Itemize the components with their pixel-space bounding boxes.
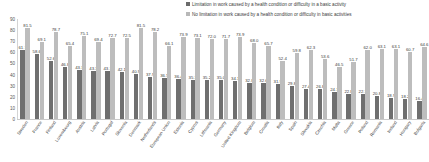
bar[interactable]: 35.2 <box>205 80 209 119</box>
bar[interactable]: 43.1 <box>105 71 109 119</box>
bar[interactable]: 81.5 <box>25 28 29 119</box>
y-axis-tick: 90 <box>10 17 15 22</box>
bar[interactable]: 35.3 <box>191 80 195 119</box>
bar[interactable]: 53.6 <box>323 59 327 119</box>
bar[interactable]: 75.1 <box>82 36 86 119</box>
bar[interactable]: 66.1 <box>167 46 171 119</box>
bar[interactable]: 27.4 <box>304 89 308 119</box>
bar[interactable]: 63.1 <box>380 49 384 119</box>
bar[interactable]: 58.6 <box>35 54 39 119</box>
x-axis-label-cell: Belgium <box>245 120 259 162</box>
x-axis-label-cell: Latvia <box>89 120 103 162</box>
y-axis-tick: 50 <box>10 61 15 66</box>
y-axis-tick: 70 <box>10 39 15 44</box>
bar[interactable]: 34.1 <box>233 81 237 119</box>
bar-group: 29.859.8 <box>287 19 301 119</box>
x-axis-label: Estonia <box>173 120 186 135</box>
bar-group: 20.863.1 <box>372 19 386 119</box>
bar-group: 37.978.2 <box>146 19 160 119</box>
bar-value-label: 72.7 <box>108 33 116 38</box>
x-axis-label-cell: Slovakia <box>301 120 315 162</box>
y-axis-tick: 80 <box>10 28 15 33</box>
bar-group: 43.369.4 <box>89 19 103 119</box>
bar[interactable]: 36.5 <box>162 78 166 119</box>
bar-value-label: 59.8 <box>293 48 301 53</box>
bar[interactable]: 72.7 <box>110 38 114 119</box>
bar[interactable]: 20.8 <box>375 96 379 119</box>
x-axis-label: Cyprus <box>187 120 199 134</box>
bar[interactable]: 64.6 <box>422 47 426 119</box>
bar[interactable]: 52.6 <box>49 61 53 119</box>
bar-group: 36.473.9 <box>174 19 188 119</box>
x-axis-label-cell: Austria <box>75 120 89 162</box>
x-axis-label: Malta <box>331 120 341 132</box>
bar[interactable]: 35.0 <box>219 80 223 119</box>
bar[interactable]: 46.8 <box>63 67 67 119</box>
bar[interactable]: 78.7 <box>54 32 58 119</box>
bar-group: 22.851.7 <box>344 19 358 119</box>
bar[interactable]: 37.9 <box>148 77 152 119</box>
y-axis-tick: 20 <box>10 94 15 99</box>
bar[interactable]: 18.9 <box>389 98 393 119</box>
bar-value-label: 73.9 <box>179 32 187 37</box>
x-axis-label-cell: Luxembourg <box>61 120 75 162</box>
bar-group: 18.260.7 <box>401 19 415 119</box>
bar[interactable]: 40.9 <box>134 74 138 119</box>
bar[interactable]: 46.5 <box>337 67 341 119</box>
bar-value-label: 53.6 <box>321 54 329 59</box>
legend-item[interactable]: Limitation in work caused by a health co… <box>186 1 429 9</box>
x-axis-label-cell: Hungary <box>401 120 415 162</box>
bar[interactable]: 69.1 <box>40 42 44 119</box>
bar[interactable]: 22.1 <box>361 94 365 119</box>
bar[interactable]: 69.4 <box>96 42 100 119</box>
bar[interactable]: 31.9 <box>276 84 280 119</box>
bar[interactable]: 22.8 <box>346 94 350 119</box>
bar[interactable]: 32.6 <box>261 83 265 119</box>
bar[interactable]: 26.8 <box>318 89 322 119</box>
y-axis-tick: 0 <box>12 117 15 122</box>
bar[interactable]: 61.7 <box>20 50 24 119</box>
bar[interactable]: 43.3 <box>91 71 95 119</box>
x-axis-label-cell: Sweden <box>18 120 32 162</box>
bar[interactable]: 68.0 <box>252 43 256 119</box>
x-axis-label: Portugal <box>101 120 114 136</box>
x-axis-label-cell: Ireland <box>386 120 400 162</box>
bar[interactable]: 78.2 <box>153 32 157 119</box>
x-axis-label-cell: Malta <box>330 120 344 162</box>
bar[interactable]: 51.7 <box>351 62 355 119</box>
bar[interactable]: 29.8 <box>290 86 294 119</box>
bar[interactable]: 73.9 <box>181 37 185 119</box>
bar[interactable]: 59.8 <box>295 53 299 119</box>
x-axis-label: Sweden <box>16 120 29 136</box>
bar[interactable]: 60.7 <box>408 52 412 119</box>
bar[interactable]: 65.4 <box>68 46 72 119</box>
x-axis-label: Hungary <box>398 120 412 136</box>
legend-item[interactable]: No limitation in work caused by a health… <box>186 11 429 19</box>
bar[interactable]: 36.4 <box>176 79 180 119</box>
bar[interactable]: 71.7 <box>224 39 228 119</box>
bar[interactable]: 73.9 <box>238 37 242 119</box>
bar[interactable]: 16.4 <box>417 101 421 119</box>
bar-group: 43.172.7 <box>103 19 117 119</box>
bar[interactable]: 65.7 <box>266 46 270 119</box>
bar-value-label: 68.0 <box>250 38 258 43</box>
bar[interactable]: 42.1 <box>120 72 124 119</box>
bar[interactable]: 81.5 <box>139 28 143 119</box>
bar[interactable]: 32.8 <box>247 83 251 119</box>
bar[interactable]: 62.0 <box>365 50 369 119</box>
x-axis-label-cell: Cyprus <box>188 120 202 162</box>
bar[interactable]: 62.3 <box>309 50 313 119</box>
x-axis-label-cell: Bulgaria <box>415 120 429 162</box>
bar[interactable]: 72.5 <box>125 38 129 119</box>
bar[interactable]: 24.1 <box>332 92 336 119</box>
x-axis-label-cell: Lithuania <box>202 120 216 162</box>
bar[interactable]: 73.1 <box>195 38 199 119</box>
bar[interactable]: 52.4 <box>280 61 284 119</box>
bar[interactable]: 72.0 <box>210 39 214 119</box>
bar[interactable]: 18.2 <box>403 99 407 119</box>
bar[interactable]: 43.7 <box>77 70 81 119</box>
bar-value-label: 78.7 <box>52 27 60 32</box>
bar[interactable]: 63.1 <box>394 49 398 119</box>
x-axis-label: Slovakia <box>299 120 313 136</box>
bar-value-label: 71.7 <box>222 34 230 39</box>
